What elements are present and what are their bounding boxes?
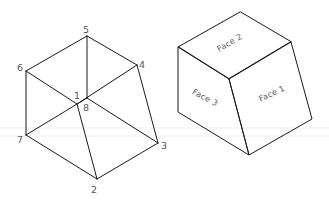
edge-3-2	[97, 143, 158, 179]
right-cube: Face 2 Face 3 Face 1	[178, 12, 312, 155]
face-3-label: Face 3	[191, 87, 220, 108]
face-2-label: Face 2	[216, 32, 244, 54]
vertex-label-7: 7	[17, 134, 23, 145]
vertex-label-4: 4	[139, 59, 145, 70]
edge-6-1	[26, 71, 77, 104]
vertex-label-8: 8	[83, 102, 89, 113]
vertex-label-6: 6	[17, 62, 23, 73]
face-2-outline	[178, 12, 291, 79]
left-cube: 1 2 3 4 5 6 7 8	[17, 24, 167, 195]
edge-1-2	[77, 104, 97, 179]
vertex-label-2: 2	[91, 184, 97, 195]
cube-diagram: 1 2 3 4 5 6 7 8 Face 2 Face 3 Face 1	[0, 0, 329, 205]
vertex-label-1: 1	[74, 90, 80, 101]
vertex-label-5: 5	[83, 24, 89, 35]
edge-7-8	[26, 98, 87, 135]
vertex-label-3: 3	[161, 140, 167, 151]
edge-5-6	[26, 36, 87, 71]
edge-5-4	[87, 36, 137, 65]
face-1-label: Face 1	[258, 84, 287, 104]
edge-7-2	[26, 135, 97, 179]
